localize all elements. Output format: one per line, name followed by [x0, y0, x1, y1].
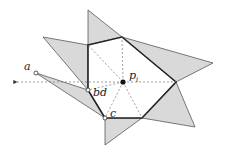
- point-c: [103, 116, 107, 120]
- label-a: a: [24, 60, 31, 73]
- center-point-pi: [120, 79, 125, 84]
- label-p-subscript: i: [136, 76, 138, 84]
- label-p: p: [129, 69, 136, 82]
- label-c: c: [110, 107, 116, 120]
- polygon-diagram: a bd c p i: [0, 0, 225, 153]
- shaded-triangle: [105, 118, 142, 145]
- label-bd: bd: [93, 86, 107, 99]
- point-a: [34, 71, 38, 75]
- point-bd: [86, 88, 90, 92]
